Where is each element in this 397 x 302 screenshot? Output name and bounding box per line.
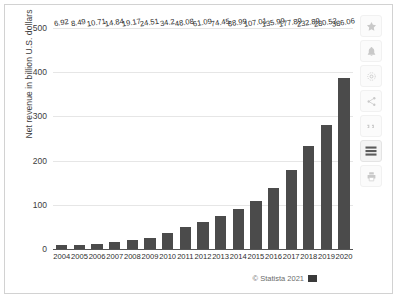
bar-column[interactable]: 6.92 bbox=[53, 28, 71, 249]
statista-chart-screenshot: Net revenue in billion U.S. dollars 0100… bbox=[0, 0, 397, 302]
x-axis-tick-label: 2007 bbox=[106, 252, 124, 261]
bar[interactable]: 74.45 bbox=[215, 216, 226, 249]
x-axis-tick-label: 2006 bbox=[88, 252, 106, 261]
bar[interactable]: 88.99 bbox=[233, 209, 244, 248]
x-axis-tick-label: 2017 bbox=[282, 252, 300, 261]
x-axis-tick-label: 2013 bbox=[212, 252, 230, 261]
print-icon bbox=[366, 171, 377, 182]
bar-column[interactable]: 177.89 bbox=[282, 28, 300, 249]
bar-column[interactable]: 135.99 bbox=[265, 28, 283, 249]
x-axis-line bbox=[53, 249, 353, 251]
bar-column[interactable]: 10.71 bbox=[88, 28, 106, 249]
citation-quote-icon bbox=[366, 121, 377, 132]
bar-column[interactable]: 34.2 bbox=[159, 28, 177, 249]
bar-column[interactable]: 8.49 bbox=[71, 28, 89, 249]
bar[interactable]: 386.06 bbox=[338, 78, 349, 249]
bar[interactable]: 177.89 bbox=[286, 170, 297, 249]
table-rows-button[interactable] bbox=[360, 140, 382, 162]
bar-value-label: 8.49 bbox=[71, 16, 87, 27]
bar[interactable]: 61.09 bbox=[197, 222, 208, 249]
y-axis-tick-label: 0 bbox=[42, 244, 47, 254]
statista-flag-icon bbox=[308, 275, 317, 282]
bar-column[interactable]: 14.84 bbox=[106, 28, 124, 249]
bar[interactable]: 48.08 bbox=[180, 227, 191, 248]
x-axis-tick-labels: 2004200520062007200820092010201120122013… bbox=[53, 252, 353, 261]
bar-column[interactable]: 19.17 bbox=[124, 28, 142, 249]
x-axis-tick-label: 2019 bbox=[318, 252, 336, 261]
favorite-star-button[interactable] bbox=[360, 15, 382, 37]
bar-value-label: 24.51 bbox=[139, 16, 159, 28]
x-axis-tick-label: 2010 bbox=[159, 252, 177, 261]
bar-column[interactable]: 107.01 bbox=[247, 28, 265, 249]
favorite-star-icon bbox=[366, 21, 377, 32]
x-axis-tick-label: 2018 bbox=[300, 252, 318, 261]
x-axis-tick-label: 2004 bbox=[53, 252, 71, 261]
y-axis-tick-label: 500 bbox=[33, 23, 47, 33]
print-button[interactable] bbox=[360, 165, 382, 187]
x-axis-tick-label: 2020 bbox=[335, 252, 353, 261]
chart-frame: Net revenue in billion U.S. dollars 0100… bbox=[4, 4, 393, 294]
plot-area: 0100200300400500 6.928.4910.7114.8419.17… bbox=[53, 29, 353, 250]
share-icon bbox=[366, 96, 377, 107]
bar[interactable]: 135.99 bbox=[268, 188, 279, 248]
x-axis-tick-label: 2009 bbox=[141, 252, 159, 261]
bar-series: 6.928.4910.7114.8419.1724.5134.248.0861.… bbox=[53, 28, 353, 249]
bar-column[interactable]: 232.89 bbox=[300, 28, 318, 249]
bar-value-label: 6.92 bbox=[53, 16, 69, 27]
bar-value-label: 61.09 bbox=[192, 16, 212, 28]
copyright-credit: © Statista 2021 bbox=[253, 274, 317, 283]
bar-column[interactable]: 280.52 bbox=[318, 28, 336, 249]
bar-column[interactable]: 74.45 bbox=[212, 28, 230, 249]
bar[interactable]: 19.17 bbox=[127, 240, 138, 248]
settings-gear-icon bbox=[366, 71, 377, 82]
y-axis-tick-label: 200 bbox=[33, 156, 47, 166]
notification-bell-button[interactable] bbox=[360, 40, 382, 62]
notification-bell-icon bbox=[366, 46, 377, 57]
y-axis-tick-label: 400 bbox=[33, 67, 47, 77]
bar[interactable]: 34.2 bbox=[162, 233, 173, 248]
y-axis-tick-label: 100 bbox=[33, 200, 47, 210]
x-axis-tick-label: 2015 bbox=[247, 252, 265, 261]
credit-text: © Statista 2021 bbox=[253, 274, 304, 283]
bar-column[interactable]: 61.09 bbox=[194, 28, 212, 249]
bar[interactable]: 232.89 bbox=[303, 146, 314, 249]
citation-quote-button[interactable] bbox=[360, 115, 382, 137]
bar-column[interactable]: 48.08 bbox=[176, 28, 194, 249]
x-axis-tick-label: 2014 bbox=[229, 252, 247, 261]
chart-action-toolbar bbox=[358, 15, 384, 187]
y-axis-tick-label: 300 bbox=[33, 111, 47, 121]
table-rows-icon bbox=[365, 146, 377, 156]
share-button[interactable] bbox=[360, 90, 382, 112]
bar[interactable]: 24.51 bbox=[144, 238, 155, 249]
x-axis-tick-label: 2011 bbox=[176, 252, 194, 261]
bar-chart: Net revenue in billion U.S. dollars 0100… bbox=[5, 5, 363, 295]
x-axis-tick-label: 2016 bbox=[265, 252, 283, 261]
bar-value-label: 10.71 bbox=[86, 16, 106, 28]
bar-column[interactable]: 88.99 bbox=[229, 28, 247, 249]
bar[interactable]: 280.52 bbox=[321, 125, 332, 249]
bar-column[interactable]: 24.51 bbox=[141, 28, 159, 249]
bar-value-label: 34.2 bbox=[159, 16, 175, 27]
x-axis-tick-label: 2008 bbox=[124, 252, 142, 261]
x-axis-tick-label: 2012 bbox=[194, 252, 212, 261]
settings-gear-button[interactable] bbox=[360, 65, 382, 87]
x-axis-tick-label: 2005 bbox=[71, 252, 89, 261]
bar-column[interactable]: 386.06 bbox=[335, 28, 353, 249]
bar[interactable]: 107.01 bbox=[250, 201, 261, 248]
